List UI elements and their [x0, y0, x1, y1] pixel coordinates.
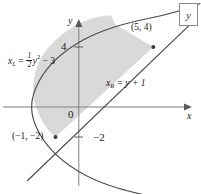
corner-badge-y: y: [179, 3, 198, 26]
x-axis-label: x: [187, 111, 191, 121]
eq-left-tail: − 3: [43, 56, 55, 66]
point-marker-5-4: [151, 45, 155, 49]
y-tick-label-4: 4: [61, 41, 67, 52]
point-label-neg1-neg2: (−1, −2): [12, 132, 43, 142]
equation-right-boundary: xR = y + 1: [106, 79, 146, 90]
figure-region-between-curves: y x 0 4 −2 (5, 4) (−1, −2) xL = 12y2 − 3…: [0, 0, 201, 194]
eq-left-equals: =: [18, 56, 23, 66]
origin-label: 0: [68, 109, 74, 120]
y-axis-label: y: [68, 16, 72, 26]
corner-badge-glyph: y: [186, 9, 191, 21]
eq-right-subscript: R: [110, 82, 114, 89]
equation-left-boundary: xL = 12y2 − 3: [8, 52, 55, 68]
eq-right-rest: = y + 1: [117, 78, 146, 88]
plot-canvas: [0, 0, 201, 194]
eq-left-exponent: 2: [37, 53, 40, 60]
point-marker-neg1-neg2: [54, 135, 58, 139]
point-label-5-4: (5, 4): [131, 23, 152, 33]
eq-left-denominator: 2: [26, 60, 32, 69]
y-tick-label-neg2: −2: [93, 132, 105, 143]
eq-left-numerator: 1: [26, 52, 32, 60]
eq-left-subscript: L: [12, 60, 16, 67]
eq-left-fraction: 12: [26, 52, 32, 68]
